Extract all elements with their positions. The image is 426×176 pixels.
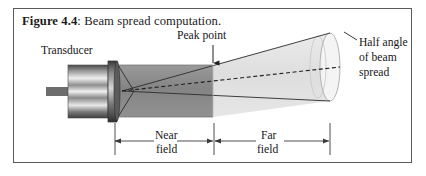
transducer-label: Transducer [41,44,93,57]
transducer-body [46,61,120,122]
near-field-dimension: Near field [115,129,213,156]
half-angle-leader-line [344,32,357,40]
half-angle-label-group: Half angle of beam spread [344,32,408,79]
far-field-cone [213,33,340,117]
figure-frame: Figure 4.4: Beam spread computation. [13,8,412,163]
far-field-dimension: Far field [215,129,329,156]
beam-spread-diagram: Transducer Peak point Half angle of beam… [14,9,413,163]
half-angle-label-line2: of beam [359,51,397,64]
far-field-label-line2: field [257,143,278,156]
half-angle-label-line3: spread [359,66,389,79]
near-field-label-line2: field [156,143,177,156]
near-field-label-line1: Near [155,129,178,142]
half-angle-label-line1: Half angle [359,36,408,49]
transducer-face-ellipse [114,61,120,121]
transducer-cylinder [68,65,108,118]
transducer-cable-stub [46,87,68,96]
dimension-lines: Near field Far field [115,123,330,156]
far-field-label-line1: Far [261,129,277,142]
peak-point-label: Peak point [177,29,227,42]
